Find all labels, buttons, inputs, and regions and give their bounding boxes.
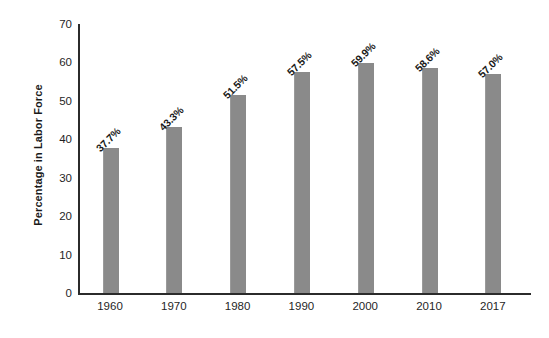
x-axis-tick-label: 1990 [289,300,315,312]
y-axis-tick-label: 40 [48,133,72,145]
bar [294,72,310,293]
y-axis-tick-label: 50 [48,95,72,107]
x-axis-tick-label: 1960 [97,300,123,312]
bar [485,74,501,293]
x-axis-tick-label: 2017 [480,300,506,312]
y-axis-tick-labels: 706050403020100 [48,0,72,338]
y-axis-tick-label: 70 [48,18,72,30]
bar [358,63,374,293]
y-axis-tick-label: 20 [48,210,72,222]
y-axis-title: Percentage in Labor Force [32,84,44,225]
x-axis-tick-label: 2010 [416,300,442,312]
x-axis-tick-label: 2000 [352,300,378,312]
x-axis-tick-label: 1970 [161,300,187,312]
bar-chart: Percentage in Labor Force 70605040302010… [0,0,549,338]
plot-area: 37.7%196043.3%197051.5%198057.5%199059.9… [78,0,531,338]
y-axis-tick-label: 10 [48,249,72,261]
y-axis-tick-label: 0 [48,287,72,299]
y-axis-tick-label: 60 [48,56,72,68]
bar [230,95,246,293]
bar [422,68,438,293]
y-axis-tick-label: 30 [48,172,72,184]
x-axis-tick-label: 1980 [225,300,251,312]
bar [166,127,182,293]
bar [103,148,119,293]
